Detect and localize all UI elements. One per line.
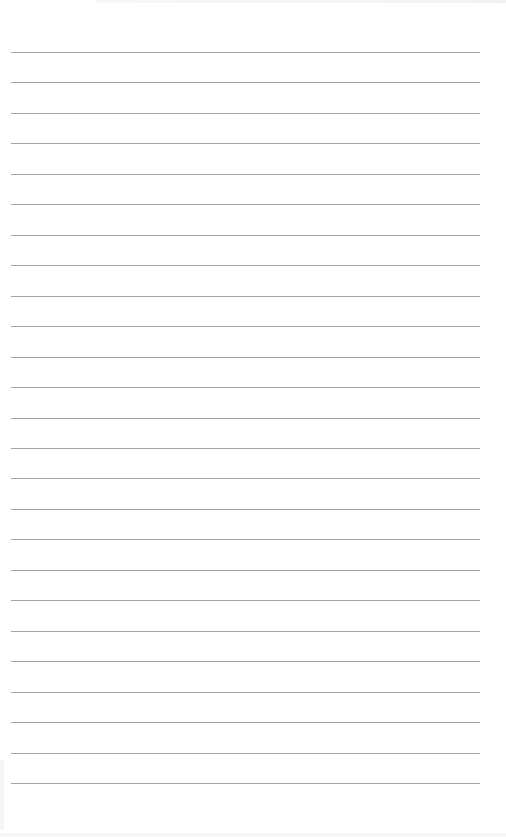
ruled-line (11, 357, 480, 358)
ruled-line (11, 326, 480, 327)
ruled-line (11, 387, 480, 388)
ruled-line (11, 753, 480, 754)
ruled-line (11, 539, 480, 540)
ruled-line (11, 448, 480, 449)
ruled-line (11, 661, 480, 662)
ruled-line (11, 113, 480, 114)
ruled-line (11, 509, 480, 510)
ruled-line (11, 418, 480, 419)
ruled-line (11, 174, 480, 175)
ruled-line (11, 235, 480, 236)
ruled-line (11, 82, 480, 83)
ruled-line (11, 265, 480, 266)
ruled-line (11, 722, 480, 723)
ruled-line (11, 631, 480, 632)
lined-paper-page (0, 0, 506, 837)
ruled-line (11, 52, 480, 53)
scan-top-edge (95, 0, 506, 3)
ruled-line (11, 783, 480, 784)
ruled-line (11, 478, 480, 479)
ruled-line (11, 570, 480, 571)
scan-left-shadow (0, 760, 4, 830)
ruled-line (11, 204, 480, 205)
ruled-line (11, 143, 480, 144)
ruled-line (11, 296, 480, 297)
scan-bottom-edge (0, 833, 506, 837)
ruled-line (11, 600, 480, 601)
ruled-line (11, 692, 480, 693)
